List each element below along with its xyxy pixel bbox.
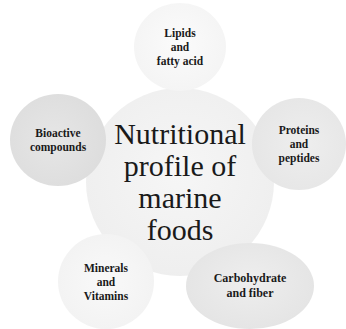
center-label: Nutritional profile of marine foods (114, 118, 246, 246)
node-label-line: and (157, 40, 203, 54)
node-label-line: fatty acid (157, 54, 203, 68)
node-label-line: and (84, 275, 128, 289)
node-label-line: and fiber (214, 286, 287, 301)
node-label: Proteins and peptides (279, 123, 320, 165)
node-label-line: compounds (30, 140, 86, 154)
center-label-line: profile of (114, 150, 246, 182)
node-label: Lipids and fatty acid (157, 26, 203, 68)
center-label-line: Nutritional (114, 118, 246, 150)
center-label-line: marine (114, 182, 246, 214)
node-label-line: Carbohydrate (214, 271, 287, 286)
node-label: Bioactive compounds (30, 126, 86, 154)
node-label-line: Bioactive (30, 126, 86, 140)
node-label-line: Vitamins (84, 289, 128, 303)
node-minerals-and-vitamins: Minerals and Vitamins (58, 234, 154, 329)
node-lipids-and-fatty-acid: Lipids and fatty acid (134, 3, 226, 91)
node-label-line: peptides (279, 151, 320, 165)
node-label: Carbohydrate and fiber (214, 271, 287, 301)
node-label: Minerals and Vitamins (84, 261, 128, 303)
node-label-line: Lipids (157, 26, 203, 40)
node-bioactive-compounds: Bioactive compounds (10, 94, 106, 186)
node-label-line: Proteins (279, 123, 320, 137)
node-label-line: and (279, 137, 320, 151)
center-label-line: foods (114, 214, 246, 246)
node-proteins-and-peptides: Proteins and peptides (252, 98, 346, 190)
node-carbohydrate-and-fiber: Carbohydrate and fiber (186, 243, 314, 329)
node-label-line: Minerals (84, 261, 128, 275)
